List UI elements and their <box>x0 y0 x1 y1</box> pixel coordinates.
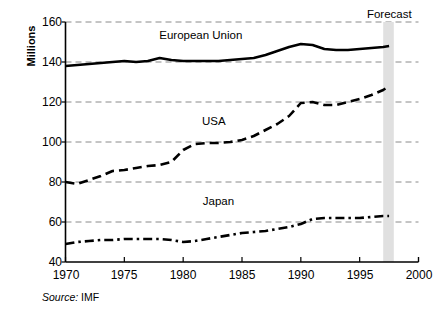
chart-container: Millions 160 140 120 100 80 60 40 1970 1… <box>0 0 444 310</box>
series-line-european-union <box>66 44 390 66</box>
series-line-usa <box>66 86 390 184</box>
plot-area <box>0 0 444 310</box>
series-line-japan <box>66 216 390 244</box>
forecast-band <box>383 22 394 262</box>
